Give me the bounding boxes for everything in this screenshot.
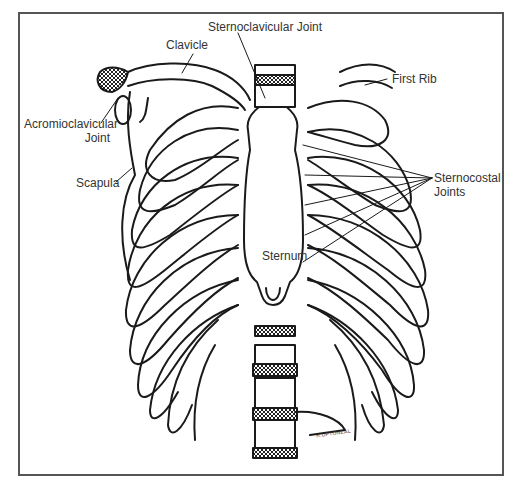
- label-acromioclavicular-joint: Acromioclavicular Joint: [24, 117, 110, 145]
- clavicle-shape: [128, 63, 395, 110]
- rib-cage-illustration: [0, 0, 518, 494]
- label-sternocostal-line2: Joints: [434, 185, 501, 199]
- label-sternoclavicular-joint: Sternoclavicular Joint: [208, 20, 322, 34]
- sternum-shape: [244, 102, 303, 305]
- label-acromioclavicular-line1: Acromioclavicular: [24, 117, 110, 131]
- left-ribs: [126, 106, 238, 440]
- label-acromioclavicular-line2: Joint: [24, 131, 110, 145]
- label-sternum: Sternum: [262, 249, 307, 263]
- label-scapula: Scapula: [76, 176, 119, 190]
- label-clavicle: Clavicle: [166, 38, 208, 52]
- label-sternocostal-line1: Sternocostal: [434, 171, 501, 185]
- label-sternocostal-joints: Sternocostal Joints: [434, 171, 501, 199]
- label-first-rib: First Rib: [392, 72, 437, 86]
- right-ribs: [308, 101, 428, 440]
